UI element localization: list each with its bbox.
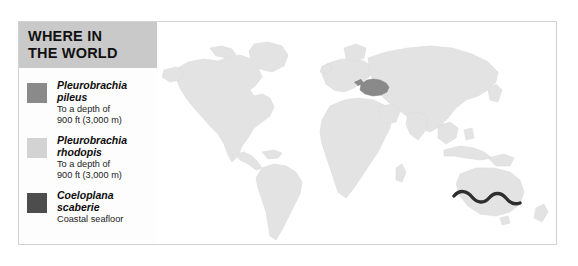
legend-header-title: WHERE IN THE WORLD — [28, 28, 154, 62]
world-map-svg — [158, 22, 556, 244]
philippines-islands — [464, 128, 474, 140]
legend-swatch-pleurobrachia-rhodopis — [27, 138, 47, 158]
legend-entry-text: Pleurobrachia rhodopis To a depth of 900… — [57, 135, 159, 181]
world-map-panel — [158, 22, 556, 244]
species-name: Pleurobrachia pileus — [57, 80, 159, 103]
tasmania-landmass — [500, 216, 510, 225]
species-depth: Coastal seafloor — [57, 214, 159, 225]
species-name: Coeloplana scaberie — [57, 190, 159, 213]
legend-header: WHERE IN THE WORLD — [19, 22, 157, 68]
legend-swatch-pleurobrachia-pileus — [27, 83, 47, 103]
legend-entry-text: Pleurobrachia pileus To a depth of 900 f… — [57, 80, 159, 126]
legend-entry-text: Coeloplana scaberie Coastal seafloor — [57, 190, 159, 225]
species-depth: To a depth of 900 ft (3,000 m) — [57, 159, 159, 181]
species-depth: To a depth of 900 ft (3,000 m) — [57, 104, 159, 126]
species-name: Pleurobrachia rhodopis — [57, 135, 159, 158]
legend-panel: WHERE IN THE WORLD Pleurobrachia pileus … — [19, 22, 157, 244]
legend-swatch-coeloplana-scaberie — [27, 193, 47, 213]
legend-body: Pleurobrachia pileus To a depth of 900 f… — [19, 68, 157, 244]
where-in-the-world-figure: WHERE IN THE WORLD Pleurobrachia pileus … — [18, 21, 557, 245]
